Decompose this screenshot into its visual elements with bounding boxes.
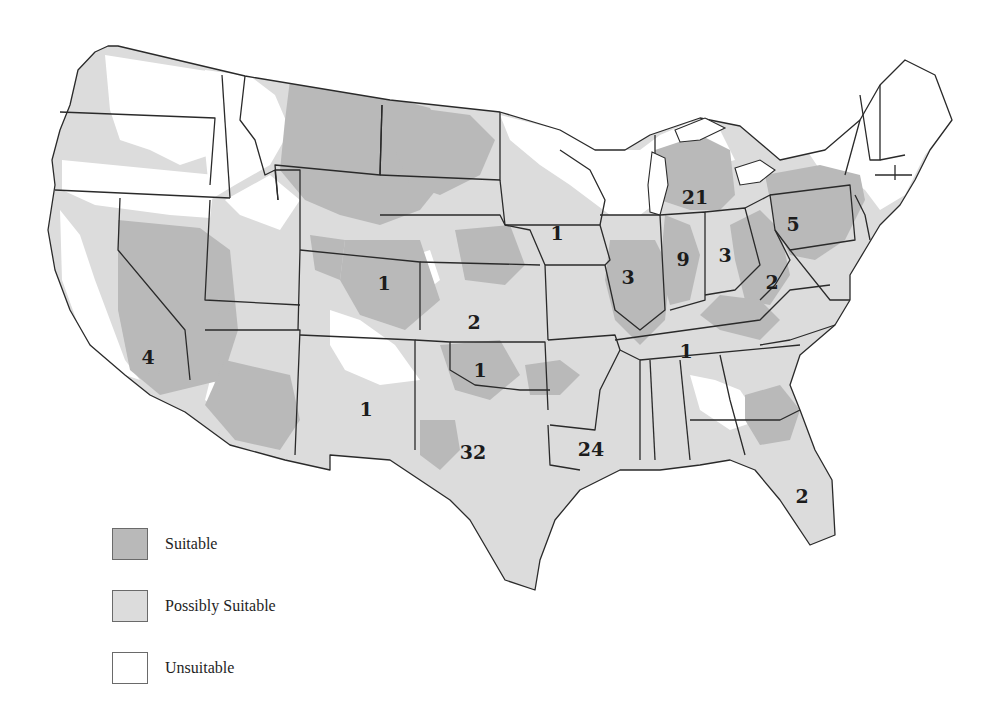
- count-florida: 2: [795, 485, 808, 507]
- count-oklahoma: 1: [473, 359, 486, 381]
- legend-label: Possibly Suitable: [165, 597, 276, 615]
- legend-item-suitable: Suitable: [112, 527, 276, 561]
- legend-item-unsuitable: Unsuitable: [112, 651, 276, 685]
- legend-item-possibly-suitable: Possibly Suitable: [112, 589, 276, 623]
- count-ohio: 3: [718, 244, 731, 266]
- count-new-mexico: 1: [359, 398, 372, 420]
- count-kansas: 2: [467, 311, 480, 333]
- count-illinois: 3: [621, 266, 634, 288]
- count-texas: 32: [460, 441, 486, 463]
- unsuitable-swatch: [112, 652, 148, 684]
- count-iowa: 1: [550, 222, 563, 244]
- count-indiana: 9: [676, 248, 689, 270]
- count-west-virginia: 2: [765, 271, 778, 293]
- legend: Suitable Possibly Suitable Unsuitable: [112, 527, 276, 713]
- count-california: 4: [141, 346, 154, 368]
- count-pennsylvania: 5: [786, 213, 799, 235]
- count-colorado: 1: [377, 272, 390, 294]
- count-michigan: 21: [682, 186, 708, 208]
- suitable-swatch: [112, 528, 148, 560]
- legend-label: Suitable: [165, 535, 217, 553]
- count-tennessee: 1: [679, 340, 692, 362]
- legend-label: Unsuitable: [165, 659, 234, 677]
- possibly-suitable-swatch: [112, 590, 148, 622]
- count-louisiana: 24: [578, 438, 604, 460]
